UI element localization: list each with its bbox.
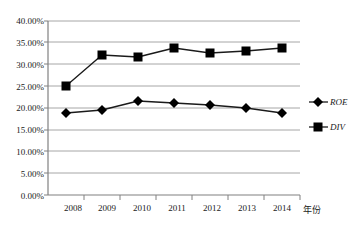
series-div — [62, 44, 287, 91]
data-point-roe-2011 — [169, 98, 179, 108]
chart-plot-svg — [0, 0, 363, 231]
data-point-roe-2009 — [97, 105, 107, 115]
data-point-div-2012 — [206, 49, 215, 58]
data-point-roe-2014 — [277, 108, 287, 118]
line-chart: 40.00% 35.00% 30.00% 25.00% 20.00% 15.00… — [0, 0, 363, 231]
chart-page: 40.00% 35.00% 30.00% 25.00% 20.00% 15.00… — [0, 0, 363, 231]
data-point-div-2008 — [62, 82, 71, 91]
data-point-roe-2013 — [241, 103, 251, 113]
data-point-div-2009 — [98, 51, 107, 60]
data-point-div-2010 — [134, 53, 143, 62]
diamond-marker-icon — [313, 97, 323, 107]
x-axis — [48, 195, 300, 200]
square-marker-icon — [314, 123, 323, 132]
data-point-roe-2010 — [133, 96, 143, 106]
data-point-div-2013 — [242, 47, 251, 56]
data-point-div-2011 — [170, 44, 179, 53]
series-roe — [61, 96, 287, 118]
data-point-roe-2008 — [61, 108, 71, 118]
legend — [309, 97, 328, 132]
data-point-div-2014 — [278, 44, 287, 53]
y-axis — [44, 21, 48, 195]
